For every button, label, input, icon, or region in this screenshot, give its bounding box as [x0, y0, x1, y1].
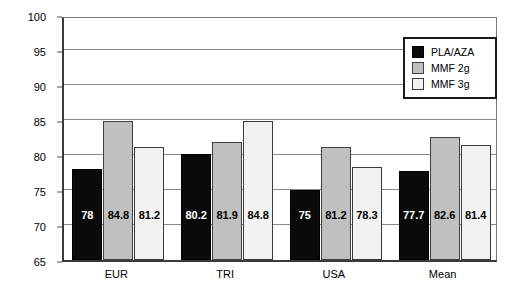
y-axis-tick-label: 95: [34, 46, 46, 58]
bar-value-label: 81.2: [322, 209, 350, 221]
bar: 78: [72, 169, 102, 260]
y-axis-tick-labels: 65707580859095100: [0, 0, 55, 295]
y-axis-tick-label: 100: [28, 11, 46, 23]
legend-color-swatch: [412, 78, 424, 90]
bar: 80.2: [181, 154, 211, 260]
bar-value-label: 84.8: [244, 209, 272, 221]
bar: 75: [290, 190, 320, 260]
x-axis-category-label: USA: [323, 268, 346, 280]
bar: 81.9: [212, 142, 242, 260]
y-axis-tick-label: 65: [34, 256, 46, 268]
bar: 81.2: [134, 147, 164, 260]
legend-item-label: MMF 2g: [431, 62, 470, 74]
bar-value-label: 78: [73, 209, 101, 221]
bar-value-label: 81.9: [213, 209, 241, 221]
legend-item-label: MMF 3g: [431, 78, 470, 90]
bar-value-label: 81.2: [135, 209, 163, 221]
bar-chart: % Survival 65707580859095100 7884.881.28…: [0, 0, 511, 295]
x-axis-category-label: TRI: [216, 268, 234, 280]
legend: PLA/AZAMMF 2gMMF 3g: [403, 37, 497, 99]
bar: 84.8: [243, 121, 273, 260]
bar-value-label: 75: [291, 209, 319, 221]
bar-value-label: 81.4: [462, 209, 490, 221]
legend-item: MMF 2g: [412, 60, 489, 76]
bar-value-label: 84.8: [104, 209, 132, 221]
legend-color-swatch: [412, 46, 424, 58]
y-axis-tick-label: 80: [34, 151, 46, 163]
bar-value-label: 78.3: [353, 209, 381, 221]
bar-value-label: 77.7: [400, 209, 428, 221]
y-axis-tick-label: 70: [34, 221, 46, 233]
bar: 78.3: [352, 167, 382, 260]
bar: 81.4: [461, 145, 491, 260]
y-axis-tick-label: 75: [34, 186, 46, 198]
x-axis-category-label: EUR: [105, 268, 128, 280]
y-axis-tick-label: 85: [34, 116, 46, 128]
bar: 77.7: [399, 171, 429, 260]
legend-item: PLA/AZA: [412, 44, 489, 60]
x-axis-category-labels: EURTRIUSAMean: [62, 268, 497, 290]
bar-value-label: 82.6: [431, 209, 459, 221]
x-axis-category-label: Mean: [429, 268, 457, 280]
bar-value-label: 80.2: [182, 209, 210, 221]
bar: 82.6: [430, 137, 460, 260]
legend-color-swatch: [412, 62, 424, 74]
y-axis-tick-label: 90: [34, 81, 46, 93]
bar: 84.8: [103, 121, 133, 260]
legend-item: MMF 3g: [412, 76, 489, 92]
legend-item-label: PLA/AZA: [431, 46, 474, 58]
bar: 81.2: [321, 147, 351, 260]
